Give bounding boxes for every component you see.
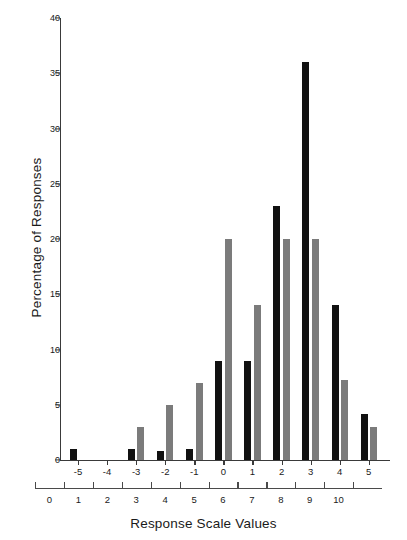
x-axis-tick-mark bbox=[340, 460, 341, 465]
secondary-axis-tick-label: 0 bbox=[47, 494, 52, 505]
y-axis-tick-mark bbox=[55, 349, 60, 350]
y-axis-tick-mark bbox=[55, 404, 60, 405]
bar-black-5 bbox=[361, 414, 368, 460]
x-axis-tick-mark bbox=[136, 460, 137, 465]
bar-gray-1 bbox=[254, 305, 261, 460]
y-axis-tick-mark bbox=[55, 128, 60, 129]
secondary-axis-tick-mark bbox=[64, 482, 65, 489]
bar-black-2 bbox=[273, 206, 280, 460]
secondary-axis-tick-mark bbox=[295, 482, 296, 489]
x-axis-tick-label: 5 bbox=[366, 466, 371, 477]
secondary-axis-tick-label: 4 bbox=[162, 494, 167, 505]
bar-gray-5 bbox=[370, 427, 377, 460]
bar-gray-neg3 bbox=[137, 427, 144, 460]
x-axis-tick-label: 2 bbox=[279, 466, 284, 477]
x-axis-tick-mark bbox=[223, 460, 224, 465]
secondary-axis-tick-mark bbox=[324, 482, 325, 489]
secondary-axis-tick-label: 3 bbox=[134, 494, 139, 505]
x-axis-tick-label: 4 bbox=[337, 466, 342, 477]
secondary-axis-tick-mark bbox=[35, 482, 36, 489]
x-axis-tick-label: 0 bbox=[221, 466, 226, 477]
y-axis-tick-mark bbox=[55, 73, 60, 74]
secondary-axis-tick-label: 9 bbox=[307, 494, 312, 505]
secondary-axis-tick-mark bbox=[266, 482, 267, 489]
secondary-axis-tick-mark bbox=[353, 482, 354, 489]
bar-black-neg5 bbox=[70, 449, 77, 460]
x-axis-tick-mark bbox=[107, 460, 108, 465]
y-axis-tick-mark bbox=[55, 238, 60, 239]
bar-black-0 bbox=[215, 361, 222, 460]
secondary-axis-tick-mark bbox=[237, 482, 238, 489]
bar-gray-0 bbox=[225, 239, 232, 460]
chart-figure: Percentage of Responses Response Scale V… bbox=[0, 0, 407, 540]
x-axis-tick-mark bbox=[282, 460, 283, 465]
bar-gray-neg2 bbox=[166, 405, 173, 460]
x-axis-tick-mark bbox=[252, 460, 253, 465]
secondary-axis-tick-mark bbox=[122, 482, 123, 489]
y-axis-tick-mark bbox=[55, 17, 60, 18]
secondary-axis-tick-label: 5 bbox=[191, 494, 196, 505]
y-axis-tick-mark bbox=[55, 294, 60, 295]
x-axis-tick-label: -4 bbox=[103, 466, 111, 477]
bar-black-4 bbox=[332, 305, 339, 460]
bar-gray-4 bbox=[341, 380, 348, 460]
x-axis-tick-label: -1 bbox=[190, 466, 198, 477]
x-axis-tick-label: -5 bbox=[74, 466, 82, 477]
secondary-axis-tick-mark bbox=[209, 482, 210, 489]
bar-gray-2 bbox=[283, 239, 290, 460]
secondary-axis-tick-mark bbox=[151, 482, 152, 489]
secondary-axis-tick-label: 6 bbox=[220, 494, 225, 505]
bar-black-neg3 bbox=[128, 449, 135, 460]
x-axis-title: Response Scale Values bbox=[0, 516, 407, 531]
bar-black-neg1 bbox=[186, 449, 193, 460]
y-axis-tick-mark bbox=[55, 459, 60, 460]
bar-gray-neg1 bbox=[196, 383, 203, 460]
secondary-axis-tick-mark bbox=[180, 482, 181, 489]
secondary-axis-tick-label: 10 bbox=[333, 494, 344, 505]
x-axis-tick-mark bbox=[369, 460, 370, 465]
y-axis-tick-mark bbox=[55, 183, 60, 184]
x-axis-tick-mark bbox=[311, 460, 312, 465]
secondary-axis-tick-mark bbox=[93, 482, 94, 489]
x-axis-tick-label: 3 bbox=[308, 466, 313, 477]
x-axis-tick-label: -2 bbox=[161, 466, 169, 477]
secondary-axis-tick-label: 2 bbox=[105, 494, 110, 505]
bar-black-neg2 bbox=[157, 451, 164, 460]
bar-black-3 bbox=[302, 62, 309, 460]
x-axis-tick-label: -3 bbox=[132, 466, 140, 477]
bar-black-1 bbox=[244, 361, 251, 460]
x-axis-tick-mark bbox=[78, 460, 79, 465]
x-axis-tick-label: 1 bbox=[250, 466, 255, 477]
secondary-axis-tick-label: 1 bbox=[76, 494, 81, 505]
secondary-axis-tick-label: 7 bbox=[249, 494, 254, 505]
x-axis-tick-mark bbox=[194, 460, 195, 465]
x-axis-tick-mark bbox=[165, 460, 166, 465]
secondary-axis-tick-label: 8 bbox=[278, 494, 283, 505]
bar-gray-3 bbox=[312, 239, 319, 460]
